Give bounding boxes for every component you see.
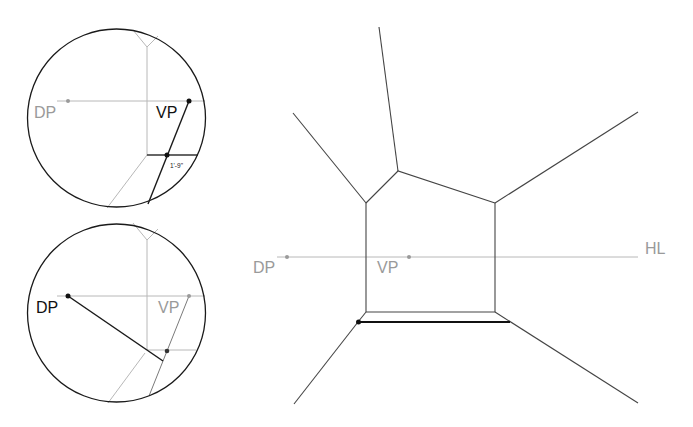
- main-room: DP VP HL: [253, 27, 666, 404]
- measured-depth-point: [356, 320, 361, 325]
- main-dp-point: [285, 255, 289, 259]
- top-inset-measure-label: 1'-9": [170, 162, 184, 169]
- top-inset-vp-point: [187, 99, 192, 104]
- bottom-inset-dp-point: [66, 294, 71, 299]
- bottom-inset-dp-ray: [68, 296, 163, 361]
- top-inset-measure-point: [165, 153, 170, 158]
- main-dp-label: DP: [253, 259, 275, 276]
- bottom-inset-measure-point: [165, 349, 170, 354]
- main-vp-label: VP: [377, 259, 398, 276]
- floor-spoke-right: [495, 312, 638, 403]
- horizon-line-label: HL: [645, 240, 666, 257]
- bottom-inset-vp-point: [187, 294, 191, 298]
- ceiling-spoke-left: [293, 113, 366, 203]
- top-inset-dp-point: [66, 99, 70, 103]
- bottom-inset-vp-label: VP: [158, 299, 179, 316]
- perspective-diagram: DP VP 1'-9" DP VP: [0, 0, 693, 427]
- top-inset-floor-corner-line: [107, 155, 147, 208]
- bottom-inset: DP VP: [28, 223, 206, 403]
- floor-spoke-left: [294, 322, 358, 404]
- ceiling-spoke-right: [495, 112, 638, 203]
- top-inset-ceiling-corner: [133, 30, 158, 47]
- main-vp-point: [407, 255, 411, 259]
- bottom-inset-floor-corner-line: [108, 353, 145, 403]
- top-inset: DP VP 1'-9": [28, 29, 206, 208]
- top-inset-vp-label: VP: [156, 104, 177, 121]
- ceiling-back-edges: [366, 171, 495, 203]
- bottom-inset-dp-label: DP: [36, 299, 58, 316]
- top-inset-dp-label: DP: [34, 104, 56, 121]
- ceiling-spoke-top: [379, 27, 398, 171]
- bottom-inset-ceiling-corner: [133, 223, 158, 240]
